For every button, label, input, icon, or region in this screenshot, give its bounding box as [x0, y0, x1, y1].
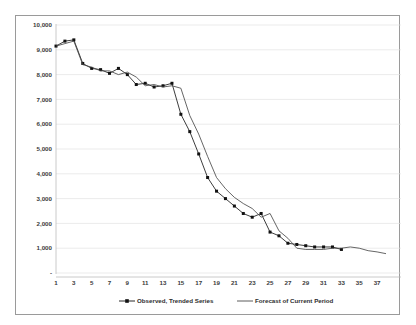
chart-figure: 10,0009,0008,0007,0006,0005,0004,0003,00… [15, 15, 400, 315]
x-tick-label: 11 [142, 279, 149, 286]
chart-legend: Observed, Trended SeriesForecast of Curr… [119, 297, 334, 304]
legend-swatch-marker-1 [125, 299, 129, 303]
y-tick-label: 7,000 [37, 96, 53, 103]
x-tick-label: 21 [231, 279, 238, 286]
y-tick-label: 9,000 [37, 46, 53, 53]
data-point-marker [179, 113, 182, 116]
data-point-marker [135, 83, 138, 86]
x-tick-label: 3 [72, 279, 76, 286]
x-tick-label: 33 [338, 279, 345, 286]
data-point-marker [153, 86, 156, 89]
y-tick-label: 6,000 [37, 120, 53, 127]
data-point-marker [295, 243, 298, 246]
axis-lines-group [56, 24, 401, 277]
x-tick-label: 9 [126, 279, 130, 286]
data-point-marker [242, 212, 245, 215]
data-point-marker [224, 197, 227, 200]
x-tick-label: 5 [90, 279, 94, 286]
y-tick-label: 2,000 [37, 220, 53, 227]
data-point-marker [188, 130, 191, 133]
data-point-marker [126, 73, 129, 76]
x-tick-label: 27 [284, 279, 291, 286]
x-tick-label: 23 [249, 279, 256, 286]
x-tick-label: 15 [177, 279, 184, 286]
series-line-2 [56, 41, 386, 254]
data-point-marker [286, 242, 289, 245]
data-point-marker [251, 216, 254, 219]
x-tick-label: 29 [302, 279, 309, 286]
data-point-marker [260, 212, 263, 215]
x-tick-label: 35 [356, 279, 363, 286]
x-axis-tick-labels: 135791113151719212325272931333537 [54, 279, 381, 286]
data-series-group [55, 38, 387, 253]
legend-label-1: Observed, Trended Series [137, 297, 214, 304]
data-point-marker [170, 82, 173, 85]
legend-label-2: Forecast of Current Period [255, 297, 334, 304]
data-point-marker [322, 245, 325, 248]
x-tick-label: 1 [54, 279, 58, 286]
x-tick-label: 37 [374, 279, 381, 286]
x-tick-label: 7 [108, 279, 112, 286]
data-point-marker [233, 205, 236, 208]
chart-plot-svg: 10,0009,0008,0007,0006,0005,0004,0003,00… [16, 16, 401, 316]
data-point-marker [206, 176, 209, 179]
x-tick-label: 13 [160, 279, 167, 286]
data-point-marker [269, 231, 272, 234]
data-point-marker [197, 152, 200, 155]
data-point-marker [313, 245, 316, 248]
series-line-1 [56, 40, 341, 250]
data-point-marker [304, 244, 307, 247]
y-axis-tick-labels: 10,0009,0008,0007,0006,0005,0004,0003,00… [33, 21, 52, 276]
gridlines-group [56, 25, 401, 273]
data-point-marker [117, 67, 120, 70]
y-tick-label: 10,000 [33, 21, 52, 28]
data-point-marker [108, 72, 111, 75]
y-tick-label: - [50, 269, 52, 276]
y-tick-label: 5,000 [37, 145, 53, 152]
y-tick-label: 8,000 [37, 71, 53, 78]
data-point-marker [215, 190, 218, 193]
x-tick-label: 17 [195, 279, 202, 286]
y-tick-label: 4,000 [37, 170, 53, 177]
x-tick-label: 31 [320, 279, 327, 286]
data-point-marker [277, 234, 280, 237]
y-tick-label: 1,000 [37, 244, 53, 251]
y-tick-label: 3,000 [37, 195, 53, 202]
data-point-marker [63, 40, 66, 43]
x-tick-label: 19 [213, 279, 220, 286]
x-tick-label: 25 [267, 279, 274, 286]
